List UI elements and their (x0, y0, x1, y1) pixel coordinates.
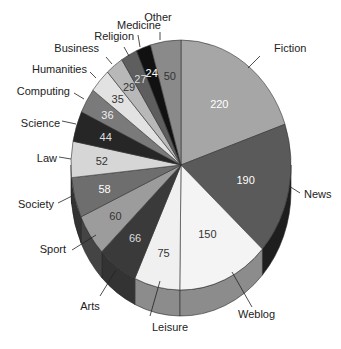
value-label-news: 190 (236, 174, 254, 186)
category-label-weblog: Weblog (238, 308, 275, 320)
leader-line-business (106, 57, 112, 64)
category-label-business: Business (54, 42, 99, 54)
leader-line-computing (74, 93, 84, 99)
value-label-medicine: 24 (146, 67, 158, 79)
category-label-leisure: Leisure (152, 321, 188, 333)
category-label-sport: Sport (40, 243, 66, 255)
pie-chart: 220190150756660585244363529272450 Fictio… (0, 0, 341, 349)
category-label-fiction: Fiction (274, 42, 306, 54)
value-label-society: 58 (98, 183, 110, 195)
value-label-sport: 60 (109, 210, 121, 222)
value-label-other: 50 (164, 70, 176, 82)
category-label-society: Society (18, 198, 55, 210)
leader-line-law (59, 157, 71, 159)
value-label-science: 44 (100, 131, 112, 143)
category-label-humanities: Humanities (32, 63, 88, 75)
value-label-arts: 66 (129, 232, 141, 244)
leader-line-fiction (248, 56, 260, 68)
value-label-leisure: 75 (157, 247, 169, 259)
category-label-computing: Computing (17, 85, 70, 97)
category-label-arts: Arts (80, 300, 100, 312)
leader-line-religion (124, 47, 129, 56)
value-label-computing: 36 (101, 109, 113, 121)
category-label-religion: Religion (94, 30, 134, 42)
value-label-weblog: 150 (198, 228, 216, 240)
value-label-fiction: 220 (210, 98, 228, 110)
category-label-law: Law (37, 152, 57, 164)
category-label-other: Other (144, 11, 172, 23)
leader-line-society (58, 196, 72, 203)
pie-chart-svg: 220190150756660585244363529272450 Fictio… (0, 0, 341, 349)
leader-line-medicine (138, 35, 140, 47)
leader-line-humanities (90, 72, 96, 78)
value-label-humanities: 35 (112, 93, 124, 105)
category-label-news: News (304, 188, 332, 200)
value-label-law: 52 (96, 155, 108, 167)
category-label-science: Science (21, 117, 60, 129)
leader-line-science (62, 121, 76, 124)
